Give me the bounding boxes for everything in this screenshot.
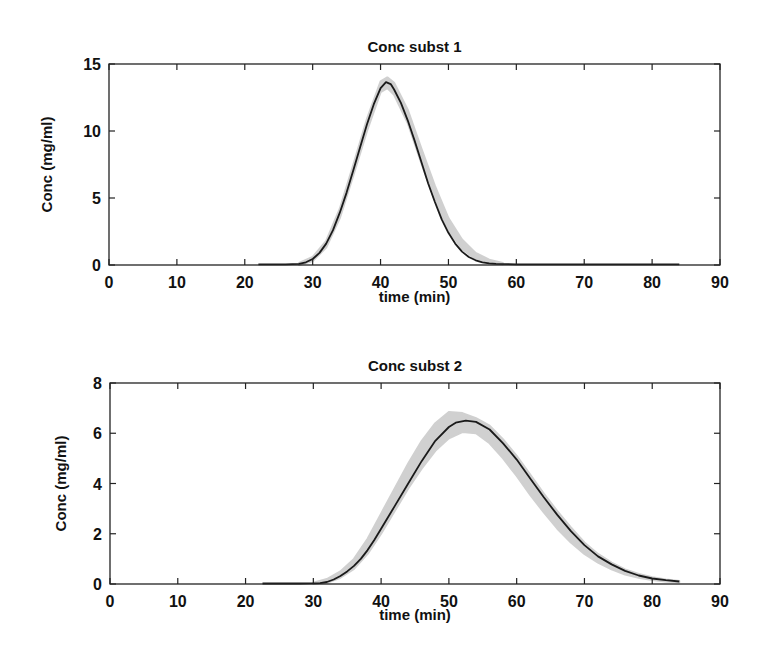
x-tick-label: 60 (508, 593, 526, 610)
x-tick-label: 30 (304, 593, 322, 610)
x-tick-label: 30 (304, 274, 322, 291)
x-tick-label: 80 (643, 593, 661, 610)
plot-conc-subst-2: 010203040506070809002468Conc subst 2time… (52, 357, 729, 623)
y-axis-label: Conc (mg/ml) (38, 117, 55, 213)
x-axis-label: time (min) (379, 288, 451, 305)
x-tick-label: 90 (711, 274, 729, 291)
plot-area (110, 383, 720, 584)
chart-title: Conc subst 1 (367, 38, 461, 55)
x-tick-label: 20 (237, 593, 255, 610)
x-tick-label: 80 (643, 274, 661, 291)
x-tick-label: 70 (576, 593, 594, 610)
y-tick-label: 0 (93, 576, 102, 593)
y-tick-label: 15 (83, 56, 101, 73)
chart-title: Conc subst 2 (368, 357, 462, 374)
y-tick-label: 5 (92, 190, 101, 207)
x-tick-label: 90 (711, 593, 729, 610)
y-tick-label: 10 (83, 123, 101, 140)
y-tick-label: 8 (93, 375, 102, 392)
plot-area (109, 64, 720, 265)
y-tick-label: 4 (93, 476, 102, 493)
plot-conc-subst-1: 0102030405060708090051015Conc subst 1tim… (38, 38, 729, 305)
x-tick-label: 70 (575, 274, 593, 291)
x-tick-label: 0 (106, 593, 115, 610)
x-tick-label: 10 (169, 593, 187, 610)
y-tick-label: 6 (93, 425, 102, 442)
x-tick-label: 20 (236, 274, 254, 291)
x-tick-label: 10 (168, 274, 186, 291)
y-tick-label: 2 (93, 526, 102, 543)
x-axis-label: time (min) (379, 606, 451, 623)
y-tick-label: 0 (92, 257, 101, 274)
x-tick-label: 60 (507, 274, 525, 291)
x-tick-label: 0 (105, 274, 114, 291)
figure: 0102030405060708090051015Conc subst 1tim… (0, 0, 764, 672)
figure-canvas: 0102030405060708090051015Conc subst 1tim… (0, 0, 764, 672)
y-axis-label: Conc (mg/ml) (52, 436, 69, 532)
